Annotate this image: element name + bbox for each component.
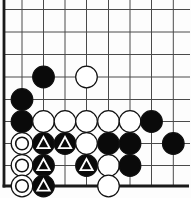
black-stone-triangle-marked (33, 133, 55, 155)
white-stone (76, 111, 98, 133)
white-stone-circle-marked (11, 155, 33, 177)
go-board (0, 0, 191, 198)
white-stone (98, 111, 120, 133)
go-diagram (0, 0, 191, 198)
black-stone-triangle-marked (54, 133, 76, 155)
black-stone-triangle-marked (33, 175, 55, 197)
black-stone (11, 111, 33, 133)
black-stone (119, 133, 141, 155)
white-stone-circle-marked (11, 133, 33, 155)
black-stone-triangle-marked (76, 155, 98, 177)
white-stone (98, 155, 120, 177)
white-stone (33, 111, 55, 133)
white-stone (98, 175, 120, 197)
black-stone (119, 155, 141, 177)
black-stone (11, 89, 33, 111)
white-stone-circle-marked (11, 175, 33, 197)
white-stone (119, 111, 141, 133)
white-stone (76, 133, 98, 155)
black-stone (33, 66, 55, 88)
white-stone (76, 66, 98, 88)
black-stone (141, 111, 163, 133)
white-stone (54, 111, 76, 133)
black-stone-triangle-marked (33, 155, 55, 177)
black-stone (98, 133, 120, 155)
black-stone (163, 133, 185, 155)
